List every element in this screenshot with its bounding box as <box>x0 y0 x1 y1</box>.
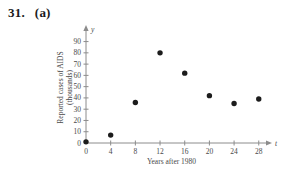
y-axis-title-units: (thousands) <box>65 70 74 105</box>
y-tick-label: 50 <box>74 82 82 91</box>
x-tick-label: 4 <box>109 147 113 156</box>
y-tick-label: 30 <box>74 105 82 114</box>
y-tick-label: 20 <box>74 116 82 125</box>
x-tick-label: 16 <box>181 147 189 156</box>
data-point <box>256 96 261 101</box>
x-tick-label: 24 <box>230 147 238 156</box>
x-axis-symbol: t <box>275 139 278 148</box>
y-tick-label: 60 <box>74 71 82 80</box>
data-point <box>83 139 88 144</box>
y-axis-title: Reported cases of AIDS <box>56 51 65 123</box>
x-tick-label: 0 <box>84 147 88 156</box>
data-point <box>133 100 138 105</box>
y-tick-label: 0 <box>77 139 81 148</box>
data-point <box>207 93 212 98</box>
data-point <box>231 101 236 106</box>
textbook-figure: 31.(a) yt0102030405060708090048121620242… <box>0 0 290 178</box>
y-tick-label: 80 <box>74 48 82 57</box>
x-tick-label: 12 <box>156 147 164 156</box>
data-point <box>108 132 113 137</box>
x-tick-label: 28 <box>255 147 263 156</box>
y-tick-label: 10 <box>74 127 82 136</box>
y-tick-label: 90 <box>74 37 82 46</box>
x-tick-label: 8 <box>133 147 137 156</box>
y-axis-arrow-icon <box>83 25 88 31</box>
y-tick-label: 40 <box>74 93 82 102</box>
x-tick-label: 20 <box>206 147 214 156</box>
data-point <box>157 50 162 55</box>
y-tick-label: 70 <box>74 60 82 69</box>
data-point <box>182 70 187 75</box>
y-axis-symbol: y <box>90 25 95 34</box>
scatter-plot: yt01020304050607080900481216202428Report… <box>0 0 290 178</box>
x-axis-title: Years after 1980 <box>147 157 196 166</box>
x-axis-arrow-icon <box>266 140 272 145</box>
